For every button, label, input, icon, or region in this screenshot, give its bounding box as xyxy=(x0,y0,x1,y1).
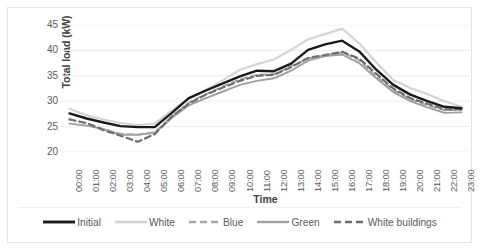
x-tick-label: 03:00 xyxy=(124,170,135,192)
x-tick-label: 23:00 xyxy=(465,170,476,192)
plot-svg xyxy=(61,25,470,152)
x-tick-label: 15:00 xyxy=(329,170,340,192)
legend-swatch-icon xyxy=(42,217,76,227)
x-tick-label: 18:00 xyxy=(380,170,391,192)
y-tick-label: 25 xyxy=(36,121,58,132)
x-tick-label: 04:00 xyxy=(141,170,152,192)
x-tick-label: 21:00 xyxy=(431,170,442,192)
x-tick-label: 20:00 xyxy=(414,170,425,192)
y-tick-label: 35 xyxy=(36,70,58,81)
legend-label: White xyxy=(149,217,175,228)
legend-label: Green xyxy=(291,217,319,228)
legend-item-white[interactable]: White xyxy=(114,217,175,228)
y-axis-ticks: 202530354045 xyxy=(30,8,58,168)
x-tick-label: 07:00 xyxy=(192,170,203,192)
x-tick-label: 00:00 xyxy=(73,170,84,192)
chart-container: Total load (kW) 202530354045 00:0001:000… xyxy=(7,7,472,243)
x-tick-label: 06:00 xyxy=(175,170,186,192)
y-tick-label: 40 xyxy=(36,44,58,55)
x-tick-label: 13:00 xyxy=(295,170,306,192)
legend-item-green[interactable]: Green xyxy=(256,217,319,228)
legend-item-white-buildings[interactable]: White buildings xyxy=(333,217,437,228)
x-tick-label: 12:00 xyxy=(278,170,289,192)
x-tick-label: 22:00 xyxy=(448,170,459,192)
x-tick-label: 09:00 xyxy=(226,170,237,192)
series-line-white xyxy=(70,29,462,126)
legend-item-blue[interactable]: Blue xyxy=(188,217,243,228)
legend-swatch-icon xyxy=(114,217,148,227)
x-tick-label: 08:00 xyxy=(209,170,220,192)
x-tick-label: 10:00 xyxy=(244,170,255,192)
x-axis-title: Time xyxy=(61,193,470,205)
y-tick-label: 30 xyxy=(36,95,58,106)
legend-label: Blue xyxy=(223,217,243,228)
x-tick-label: 17:00 xyxy=(363,170,374,192)
legend-swatch-icon xyxy=(188,217,222,227)
x-tick-label: 19:00 xyxy=(397,170,408,192)
plot-area xyxy=(61,25,470,152)
x-tick-label: 16:00 xyxy=(346,170,357,192)
chart-legend: InitialWhiteBlueGreenWhite buildings xyxy=(18,208,461,236)
x-tick-label: 14:00 xyxy=(312,170,323,192)
y-tick-label: 45 xyxy=(36,19,58,30)
x-tick-label: 11:00 xyxy=(261,170,272,192)
legend-swatch-icon xyxy=(333,217,367,227)
legend-swatch-icon xyxy=(256,217,290,227)
x-tick-label: 01:00 xyxy=(90,170,101,192)
x-tick-label: 02:00 xyxy=(107,170,118,192)
y-tick-label: 20 xyxy=(36,146,58,157)
legend-label: White buildings xyxy=(368,217,437,228)
legend-label: Initial xyxy=(77,217,101,228)
x-tick-label: 05:00 xyxy=(158,170,169,192)
legend-item-initial[interactable]: Initial xyxy=(42,217,101,228)
